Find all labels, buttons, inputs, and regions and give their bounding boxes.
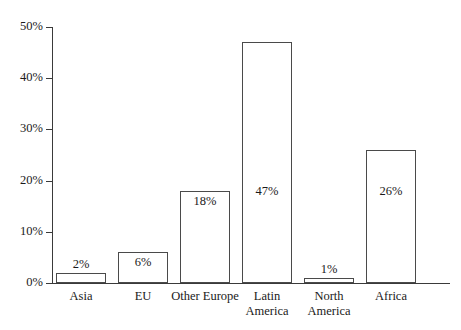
bar-value-label: 26% — [366, 185, 416, 198]
y-axis-tick-label: 50% — [20, 20, 43, 32]
bar-value-label: 2% — [56, 258, 106, 271]
bar-value-label: 6% — [118, 256, 168, 269]
y-axis-tick-label: 30% — [20, 122, 43, 134]
bar-chart-plot-area: 0%10%20%30%40%50% 2%6%18%47%1%26% AsiaEU… — [0, 0, 461, 330]
bar-value-label: 18% — [180, 195, 230, 208]
y-axis-tick-label: 20% — [20, 174, 43, 186]
chart-container: 0%10%20%30%40%50% 2%6%18%47%1%26% AsiaEU… — [0, 0, 461, 330]
y-axis-tick-mark — [46, 181, 52, 182]
y-axis-tick-label: 10% — [20, 225, 43, 237]
x-axis-line — [52, 283, 450, 284]
bar[interactable] — [366, 150, 416, 283]
y-axis-line — [52, 27, 53, 284]
y-axis-tick-mark — [46, 78, 52, 79]
bar-value-label: 47% — [242, 185, 292, 198]
bar[interactable] — [304, 278, 354, 283]
bar[interactable] — [242, 42, 292, 283]
y-axis-tick-mark — [46, 232, 52, 233]
y-axis-tick-label: 0% — [26, 276, 43, 288]
y-axis-tick-mark — [46, 27, 52, 28]
y-axis-tick-mark — [46, 283, 52, 284]
x-axis-category-label: Africa — [354, 289, 428, 304]
y-axis-tick-label: 40% — [20, 71, 43, 83]
bar-value-label: 1% — [304, 263, 354, 276]
bar[interactable] — [56, 273, 106, 283]
y-axis-tick-mark — [46, 129, 52, 130]
